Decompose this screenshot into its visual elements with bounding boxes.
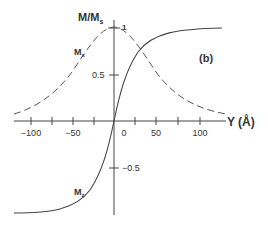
chart: M/Ms 1 0.5 −0.5 −100 −50 0 50 100 Y (Å) … (0, 0, 268, 226)
y-axis-label: M/Ms (78, 11, 103, 25)
mx-curve (14, 27, 226, 114)
x-axis-label: Y (Å) (227, 114, 255, 129)
mz-label: Mz (74, 187, 85, 198)
xtick-label-50: 50 (151, 128, 161, 138)
ytick-label-neg-0-5: −0.5 (122, 163, 140, 173)
xtick-label-100: 100 (192, 128, 207, 138)
ytick-label-0-5: 0.5 (92, 70, 105, 80)
xtick-label-neg100: −100 (21, 128, 41, 138)
mx-label: Mx (74, 47, 86, 58)
xtick-label-neg50: −50 (65, 128, 80, 138)
ytick-label-1: 1 (122, 23, 127, 32)
xtick-label-0: 0 (121, 128, 126, 138)
panel-label: (b) (199, 52, 213, 64)
